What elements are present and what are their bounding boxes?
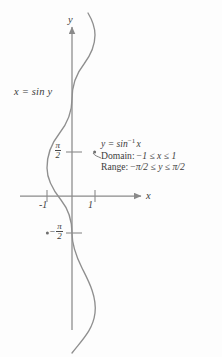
- y-tick-neg-denominator: 2: [56, 232, 63, 241]
- annotation-domain-value: −1 ≤ x ≤ 1: [135, 150, 178, 161]
- annotation-domain-name: Domain:: [101, 150, 135, 161]
- figure-canvas: y x x = sin y -1 1 π 2 − π 2 y = sin−1x …: [0, 0, 222, 357]
- annotation-inverse-prefix: y = sin: [101, 138, 128, 149]
- annotation-block: y = sin−1x Domain:−1 ≤ x ≤ 1 Range:−π/2 …: [101, 136, 186, 173]
- x-axis-label: x: [146, 190, 151, 202]
- y-tick-label-pi-over-2: π 2: [54, 141, 61, 160]
- annotation-range-line: Range:−π/2 ≤ y ≤ π/2: [101, 161, 186, 173]
- annotation-inverse-suffix: x: [135, 138, 142, 149]
- y-tick-pos-denominator: 2: [55, 151, 62, 160]
- x-tick-label-neg1: -1: [39, 199, 47, 210]
- curve-equation-label: x = sin y: [14, 86, 52, 98]
- annotation-range-name: Range:: [101, 161, 128, 172]
- x-tick-label-pos1: 1: [88, 199, 93, 210]
- annotation-range-value: −π/2 ≤ y ≤ π/2: [128, 161, 186, 172]
- y-tick-neg-sign: −: [49, 226, 56, 237]
- y-axis-label: y: [68, 14, 73, 26]
- annotation-inverse-equation: y = sin−1x: [101, 136, 186, 150]
- sine-curve: [47, 13, 95, 353]
- annotation-domain-line: Domain:−1 ≤ x ≤ 1: [101, 150, 186, 162]
- y-tick-label-neg-pi-over-2: − π 2: [49, 222, 63, 241]
- annotation-leader-line: [93, 153, 101, 158]
- plot-area: [0, 0, 222, 357]
